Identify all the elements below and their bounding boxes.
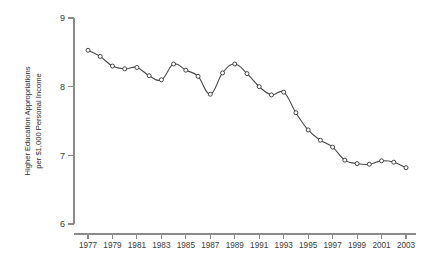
data-point-marker	[282, 90, 286, 94]
x-axis-tick-label: 1979	[103, 241, 122, 250]
x-axis-tick-label: 1985	[177, 241, 196, 250]
x-axis-tick-label: 1983	[152, 241, 171, 250]
data-point-marker	[245, 72, 249, 76]
data-point-marker	[380, 159, 384, 163]
x-axis-tick-label: 1999	[348, 241, 367, 250]
y-axis-tick-label: 6	[60, 219, 65, 229]
x-axis: 1977197919811983198519871989199119931995…	[74, 234, 416, 250]
data-point-marker	[196, 74, 200, 78]
data-point-marker	[135, 65, 139, 69]
data-point-marker	[233, 62, 237, 66]
x-axis-tick-label: 1977	[79, 241, 98, 250]
data-point-marker	[86, 48, 90, 52]
data-point-marker	[392, 160, 396, 164]
data-point-marker	[306, 128, 310, 132]
data-point-marker	[98, 54, 102, 58]
y-axis-title-line: per $1,000 Personal Income	[34, 73, 43, 168]
data-point-marker	[294, 111, 298, 115]
data-point-marker	[208, 92, 212, 96]
data-point-marker	[221, 71, 225, 75]
y-axis-title-line: Higher Education Appropriations	[23, 66, 32, 175]
chart-container: 6789Higher Education Appropriationsper $…	[0, 0, 431, 262]
data-point-marker	[269, 93, 273, 97]
x-axis-tick-label: 1987	[201, 241, 220, 250]
data-point-marker	[318, 138, 322, 142]
data-point-marker	[159, 78, 163, 82]
data-point-marker	[343, 158, 347, 162]
x-axis-tick-label: 1991	[250, 241, 269, 250]
data-point-marker	[172, 62, 176, 66]
data-point-marker	[184, 68, 188, 72]
x-axis-tick-label: 2001	[372, 241, 391, 250]
x-axis-tick-label: 1981	[128, 241, 147, 250]
data-point-marker	[123, 67, 127, 71]
y-axis: 6789	[60, 13, 74, 229]
x-axis-tick-label: 1995	[299, 241, 318, 250]
x-axis-tick-label: 2003	[397, 241, 416, 250]
data-point-marker	[367, 162, 371, 166]
x-axis-tick-label: 1989	[226, 241, 245, 250]
data-point-markers	[86, 48, 408, 169]
y-axis-tick-label: 7	[60, 151, 65, 161]
data-point-marker	[110, 64, 114, 68]
x-axis-tick-label: 1993	[275, 241, 294, 250]
y-axis-tick-label: 9	[60, 13, 65, 23]
y-axis-title: Higher Education Appropriationsper $1,00…	[23, 66, 43, 175]
data-point-marker	[404, 166, 408, 170]
y-axis-tick-label: 8	[60, 82, 65, 92]
data-point-marker	[355, 162, 359, 166]
x-axis-tick-label: 1997	[324, 241, 343, 250]
data-point-marker	[257, 85, 261, 89]
data-point-marker	[147, 74, 151, 78]
line-chart: 6789Higher Education Appropriationsper $…	[0, 0, 431, 262]
data-point-marker	[331, 145, 335, 149]
